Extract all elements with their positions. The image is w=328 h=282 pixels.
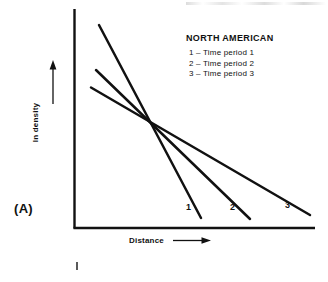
panel-label: (A) — [14, 201, 33, 216]
scan-artifact-tick — [76, 262, 78, 270]
figure-panel-a: (A) NORTH AMERICAN 1 – Time period 1 2 –… — [0, 0, 328, 282]
legend-item-time-period-3: 3 – Time period 3 — [189, 69, 290, 80]
x-axis-arrow-icon — [173, 237, 211, 244]
series-line-3 — [91, 88, 310, 216]
legend: NORTH AMERICAN 1 – Time period 1 2 – Tim… — [186, 33, 290, 80]
legend-item-time-period-2: 2 – Time period 2 — [189, 59, 290, 70]
curve-label-1: 1 — [186, 202, 191, 212]
series-line-2 — [96, 70, 250, 219]
curve-label-3: 3 — [285, 200, 290, 210]
legend-item-time-period-1: 1 – Time period 1 — [189, 48, 290, 59]
legend-entry-list: 1 – Time period 1 2 – Time period 2 3 – … — [186, 48, 290, 80]
x-axis-label: Distance — [129, 236, 164, 245]
y-axis-arrow-icon — [50, 60, 57, 104]
legend-title: NORTH AMERICAN — [186, 33, 290, 43]
curve-label-2: 2 — [230, 202, 235, 212]
y-axis-label: ln density — [31, 78, 40, 168]
